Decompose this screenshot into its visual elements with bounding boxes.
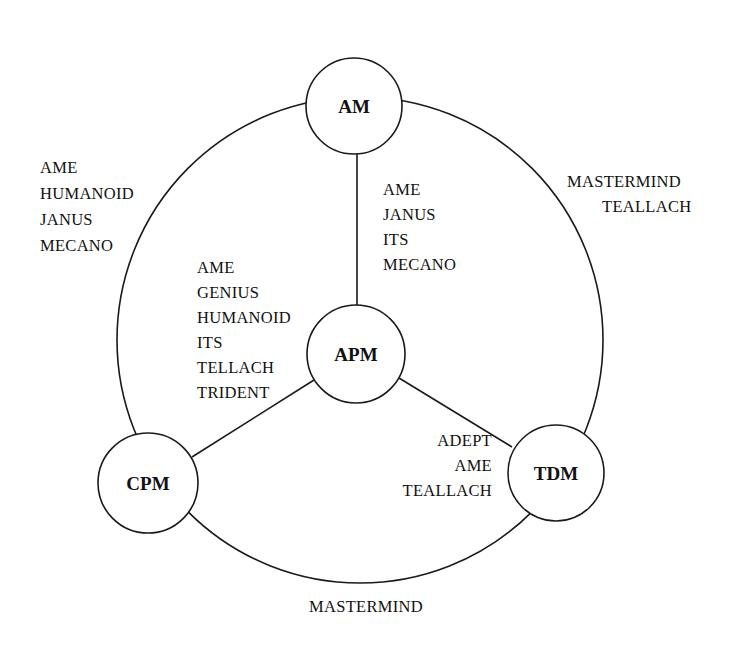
edge-label: JANUS: [383, 205, 436, 224]
edge-am-cpm-labels: AME HUMANOID JANUS MECANO: [40, 158, 134, 255]
diagram-canvas: AM APM CPM TDM AME JANUS ITS MECANO AME …: [0, 0, 741, 646]
edge-am-tdm-labels: MASTERMIND TEALLACH: [567, 172, 691, 216]
edge-label: MECANO: [383, 255, 456, 274]
edge-label: TEALLACH: [403, 481, 492, 500]
edge-label: ADEPT: [437, 431, 492, 450]
edge-label: AME: [383, 180, 421, 199]
node-am-label: AM: [338, 96, 370, 117]
edge-am-apm-labels: AME JANUS ITS MECANO: [383, 180, 456, 274]
edge-label: TEALLACH: [602, 197, 691, 216]
edge-label: AME: [454, 456, 492, 475]
edge-label: MECANO: [40, 236, 113, 255]
node-apm-label: APM: [334, 344, 377, 365]
edge-label: JANUS: [40, 210, 93, 229]
edge-label: MASTERMIND: [309, 597, 423, 616]
edge-label: AME: [40, 158, 78, 177]
node-cpm-label: CPM: [126, 473, 169, 494]
edge-label: TELLACH: [197, 358, 274, 377]
edge-label: GENIUS: [197, 283, 259, 302]
edge-label: MASTERMIND: [567, 172, 681, 191]
edge-label: HUMANOID: [197, 308, 291, 327]
node-tdm: TDM: [508, 425, 604, 521]
node-am: AM: [306, 58, 402, 154]
node-cpm: CPM: [98, 433, 198, 533]
edge-label: ITS: [197, 333, 223, 352]
edge-label: ITS: [383, 230, 409, 249]
edge-label: HUMANOID: [40, 184, 134, 203]
edge-apm-tdm-labels: ADEPT AME TEALLACH: [403, 431, 492, 500]
edge-label: AME: [197, 258, 235, 277]
edge-apm-cpm-labels: AME GENIUS HUMANOID ITS TELLACH TRIDENT: [197, 258, 291, 402]
node-apm: APM: [307, 305, 405, 403]
node-tdm-label: TDM: [534, 463, 578, 484]
edge-cpm-tdm-labels: MASTERMIND: [309, 597, 423, 616]
edge-label: TRIDENT: [197, 383, 270, 402]
